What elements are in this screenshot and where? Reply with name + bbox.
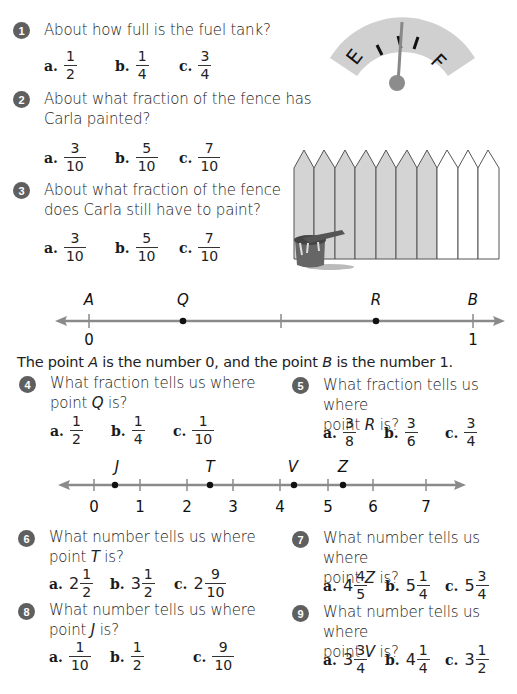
option-letter: c.: [179, 240, 192, 256]
fraction: 12: [131, 640, 144, 673]
question-number-badge: 5: [292, 377, 309, 394]
option-letter: b.: [110, 576, 125, 592]
option-letter: b.: [115, 58, 130, 74]
svg-text:1: 1: [468, 331, 478, 345]
option-letter: a.: [44, 58, 58, 74]
option-a[interactable]: a.334: [323, 643, 385, 676]
option-letter: a.: [323, 652, 337, 668]
question-number-badge: 4: [19, 376, 36, 393]
question-8-options: a.110 b.12 c.910: [49, 640, 234, 673]
number-line-0-to-7: J T V Z 0 1 2 3 4 5 6 7: [58, 458, 466, 518]
fraction: 14: [136, 49, 149, 82]
instruction-sentence: The point A is the number 0, and the poi…: [17, 354, 453, 370]
fraction: 710: [198, 231, 220, 264]
question-3-options: a.310 b.510 c.710: [44, 231, 220, 264]
option-letter: c.: [179, 58, 192, 74]
svg-text:0: 0: [89, 498, 99, 516]
fraction: 34: [476, 569, 489, 602]
option-b[interactable]: b.414: [385, 643, 445, 676]
question-8-text: What number tells us wherepoint J is?: [49, 600, 255, 640]
question-2-options: a.310 b.510 c.710: [44, 141, 220, 174]
option-letter: c.: [445, 652, 458, 668]
question-number-badge: 7: [292, 531, 309, 548]
option-a[interactable]: a.110: [49, 640, 110, 673]
fraction: 310: [64, 231, 86, 264]
fraction: 12: [70, 414, 83, 447]
option-a[interactable]: a.445: [323, 569, 385, 602]
svg-text:Q: Q: [177, 291, 189, 309]
question-number-badge: 1: [13, 22, 30, 39]
option-a[interactable]: a.310: [44, 141, 115, 174]
option-b[interactable]: b.12: [110, 640, 193, 673]
option-letter: a.: [50, 423, 64, 439]
fraction: 910: [212, 640, 234, 673]
fraction: 710: [198, 141, 220, 174]
svg-text:2: 2: [182, 498, 192, 516]
fraction: 110: [192, 414, 214, 447]
svg-text:R: R: [371, 291, 381, 309]
fraction: 34: [198, 49, 211, 82]
fraction: 14: [417, 643, 430, 676]
question-2-text: About what fraction of the fence hasCarl…: [44, 89, 311, 129]
option-a[interactable]: a.310: [44, 231, 115, 264]
svg-text:J: J: [112, 458, 119, 476]
option-letter: b.: [111, 423, 126, 439]
svg-text:1: 1: [135, 498, 145, 516]
option-a[interactable]: a.212: [49, 567, 110, 600]
option-b[interactable]: b.510: [115, 141, 179, 174]
option-letter: b.: [115, 150, 130, 166]
svg-text:5: 5: [323, 498, 333, 516]
question-number-badge: 8: [18, 603, 35, 620]
option-letter: a.: [44, 240, 58, 256]
svg-text:3: 3: [228, 498, 238, 516]
question-3-text: About what fraction of the fencedoes Car…: [44, 180, 281, 220]
svg-text:6: 6: [368, 498, 378, 516]
option-b[interactable]: b.36: [384, 416, 445, 449]
option-b[interactable]: b.14: [111, 414, 173, 447]
option-b[interactable]: b.312: [110, 567, 174, 600]
option-c[interactable]: c.534: [445, 569, 489, 602]
number-line-0-to-1: A Q R B 0 1: [55, 285, 505, 345]
question-5-options: a.38 b.36 c.34: [323, 416, 477, 449]
option-a[interactable]: a.12: [44, 49, 115, 82]
fraction: 12: [142, 567, 155, 600]
option-letter: b.: [115, 240, 130, 256]
question-number-badge: 9: [292, 605, 309, 622]
option-b[interactable]: b.514: [385, 569, 445, 602]
fraction: 12: [80, 567, 93, 600]
option-b[interactable]: b.14: [115, 49, 179, 82]
svg-text:7: 7: [421, 498, 431, 516]
option-letter: c.: [173, 423, 186, 439]
option-c[interactable]: c.2910: [174, 567, 226, 600]
option-letter: c.: [445, 578, 458, 594]
question-6-text: What number tells us wherepoint T is?: [49, 527, 255, 567]
option-letter: a.: [49, 576, 63, 592]
svg-text:T: T: [205, 458, 216, 476]
question-1-text: About how full is the fuel tank?: [44, 20, 271, 40]
option-a[interactable]: a.12: [50, 414, 111, 447]
option-letter: c.: [174, 576, 187, 592]
option-c[interactable]: c.710: [179, 231, 220, 264]
option-letter: b.: [385, 652, 400, 668]
option-letter: b.: [110, 649, 125, 665]
question-6-options: a.212 b.312 c.2910: [49, 567, 226, 600]
fraction: 45: [354, 569, 367, 602]
fuel-gauge-illustration: E F: [330, 8, 480, 98]
option-c[interactable]: c.710: [179, 141, 220, 174]
option-c[interactable]: c.312: [445, 643, 489, 676]
question-4-options: a.12 b.14 c.110: [50, 414, 214, 447]
option-c[interactable]: c.34: [179, 49, 211, 82]
option-letter: c.: [179, 150, 192, 166]
option-b[interactable]: b.510: [115, 231, 179, 264]
option-c[interactable]: c.110: [173, 414, 214, 447]
option-letter: c.: [193, 649, 206, 665]
fraction: 14: [132, 414, 145, 447]
option-a[interactable]: a.38: [323, 416, 384, 449]
question-9-options: a.334 b.414 c.312: [323, 643, 489, 676]
option-c[interactable]: c.34: [445, 416, 477, 449]
svg-text:Z: Z: [337, 458, 349, 476]
option-letter: c.: [445, 425, 458, 441]
question-number-badge: 3: [13, 182, 30, 199]
option-c[interactable]: c.910: [193, 640, 234, 673]
fraction: 14: [417, 569, 430, 602]
